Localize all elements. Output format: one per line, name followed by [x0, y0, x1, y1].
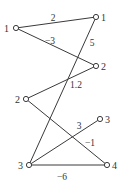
node-L1-circle-icon	[13, 25, 18, 30]
edge-weight-label: 1.2	[70, 80, 82, 90]
node-label-R1: 1	[101, 12, 106, 23]
node-labels-layer: 1122334	[4, 12, 117, 171]
weights-layer: 2−351.2−13−6	[45, 13, 95, 182]
edge-L1-R1	[16, 17, 96, 28]
node-label-L3: 3	[18, 160, 23, 171]
edge-weight-label: 2	[51, 13, 56, 23]
edge-weight-label: −6	[57, 172, 67, 182]
nodes-layer	[13, 14, 109, 167]
node-L3-circle-icon	[26, 162, 31, 167]
bipartite-graph: 2−351.2−13−6 1122334	[0, 0, 126, 192]
edge-L1-R2	[16, 28, 96, 66]
node-label-R3: 3	[105, 114, 110, 125]
edge-weight-label: 5	[90, 38, 95, 48]
node-R4-circle-icon	[104, 162, 109, 167]
node-R3-circle-icon	[97, 116, 102, 121]
edge-L2-R4	[26, 99, 107, 165]
node-label-R2: 2	[101, 61, 106, 72]
node-L2-circle-icon	[23, 96, 28, 101]
node-label-R4: 4	[112, 160, 117, 171]
node-R1-circle-icon	[93, 14, 98, 19]
node-label-L2: 2	[15, 94, 20, 105]
node-label-L1: 1	[4, 23, 9, 34]
edge-weight-label: 3	[77, 121, 82, 131]
edge-weight-label: −3	[45, 36, 55, 46]
edge-weight-label: −1	[85, 138, 95, 148]
node-R2-circle-icon	[93, 63, 98, 68]
